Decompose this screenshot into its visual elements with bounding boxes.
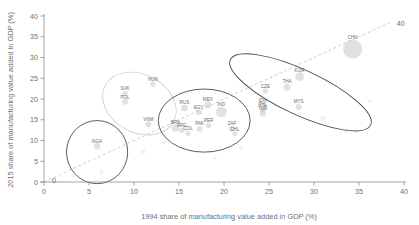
data-bubble	[263, 89, 268, 94]
x-tick-label: 20	[220, 187, 228, 196]
point-label: MYS	[294, 99, 304, 104]
chart-canvas: 0510152025303540 0510152025303540 NGASVK…	[0, 0, 419, 225]
x-axis-title: 1994 share of manufacturing value added …	[141, 212, 317, 221]
data-bubble	[284, 84, 291, 91]
y-tick-label: 5	[34, 157, 38, 166]
point-label: THA	[282, 79, 292, 84]
point-label: IND	[217, 102, 226, 107]
x-tick-label: 30	[310, 187, 318, 196]
point-label: ZAF	[228, 121, 237, 126]
data-bubble	[260, 110, 266, 116]
point-label: NGA	[92, 139, 103, 144]
background-point	[100, 170, 104, 174]
low-share-group	[67, 121, 128, 184]
diagonal-origin-label: 0	[52, 176, 56, 185]
y-tick-label: 40	[30, 12, 38, 21]
point-label: KOR	[295, 68, 306, 73]
background-point	[368, 99, 372, 103]
data-bubble	[185, 131, 190, 136]
data-bubble	[196, 109, 202, 115]
data-bubble	[232, 131, 237, 136]
emerging-europe-group	[92, 60, 188, 148]
y-tick-label: 10	[30, 136, 38, 145]
data-bubble	[343, 40, 362, 59]
y-tick-label: 25	[30, 74, 38, 83]
scatter-chart: 0510152025303540 0510152025303540 NGASVK…	[0, 0, 419, 225]
background-point	[71, 174, 75, 178]
data-bubble	[197, 126, 203, 132]
point-label: MEX	[203, 97, 213, 102]
point-label: PER	[204, 118, 214, 123]
point-label: CHL	[230, 127, 240, 132]
x-tick-label: 40	[400, 187, 408, 196]
data-bubble	[181, 105, 188, 112]
point-label: CHN	[348, 35, 358, 40]
data-bubble	[94, 143, 100, 149]
y-ticks: 0510152025303540	[30, 12, 44, 187]
x-tick-label: 10	[130, 187, 138, 196]
x-tick-label: 35	[355, 187, 363, 196]
data-bubble	[145, 121, 151, 127]
background-point	[320, 116, 325, 121]
point-label: VNM	[143, 117, 153, 122]
background-point	[213, 156, 217, 160]
data-bubble	[122, 99, 128, 105]
background-point	[163, 140, 167, 144]
y-tick-label: 0	[34, 178, 38, 187]
y-tick-label: 30	[30, 53, 38, 62]
point-label: SVK	[120, 86, 130, 91]
data-bubble	[150, 81, 155, 86]
data-bubble	[296, 104, 302, 110]
x-tick-label: 5	[87, 187, 91, 196]
background-point	[239, 146, 243, 150]
background-points	[71, 83, 372, 178]
data-bubble	[206, 123, 211, 128]
point-label: HUN	[148, 77, 158, 82]
x-tick-label: 0	[42, 187, 46, 196]
diagonal-end-label: 40	[397, 19, 405, 28]
data-bubble	[216, 106, 227, 117]
point-label: EGY	[194, 105, 204, 110]
point-label: POL	[120, 95, 130, 100]
data-bubble	[204, 101, 211, 108]
point-label: RUS	[180, 100, 190, 105]
point-labels: NGASVKPOLHUNVNMMEXEGYINDRUSBRAARGCOLPAKP…	[92, 35, 358, 143]
point-label: CZE	[261, 84, 270, 89]
background-point	[141, 149, 145, 153]
y-tick-label: 35	[30, 32, 38, 41]
x-tick-label: 15	[175, 187, 183, 196]
x-tick-label: 25	[265, 187, 273, 196]
point-label: TUR	[258, 106, 268, 111]
y-axis-title: 2015 share of manufacturing value added …	[6, 12, 15, 188]
y-tick-label: 15	[30, 115, 38, 124]
y-tick-label: 20	[30, 95, 38, 104]
point-label: COL	[183, 126, 193, 131]
data-bubble	[295, 72, 304, 81]
